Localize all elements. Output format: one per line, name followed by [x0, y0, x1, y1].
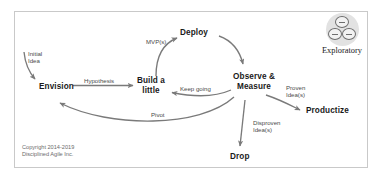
edge-label-proven-ideas-line2: Idea(s)	[286, 91, 316, 98]
edge-label-initial-idea-line2: Idea	[28, 57, 54, 64]
arrow-deploy-to-observe	[219, 36, 243, 64]
three-circles-icon-left	[328, 28, 342, 40]
arrow-observe-to-envision-pivot	[60, 97, 234, 121]
edge-label-initial-idea-line1: Initial	[28, 50, 54, 57]
edge-label-pivot: Pivot	[151, 111, 165, 118]
diagram-canvas: Envision Build a little Deploy Observe &…	[0, 0, 381, 180]
node-build-a-little-line2: little	[133, 86, 169, 96]
edge-label-proven-ideas-line1: Proven	[286, 84, 316, 91]
logo-dash-top	[339, 22, 345, 23]
edge-label-keep-going: Keep going	[180, 85, 211, 92]
logo-dash-right	[346, 34, 352, 35]
node-observe-measure-line2: Measure	[228, 82, 280, 92]
exploratory-logo: Exploratory	[320, 13, 364, 59]
copyright-line2: Disciplined Agile Inc.	[22, 151, 74, 158]
three-circles-icon-right	[342, 28, 356, 40]
logo-dash-left	[332, 34, 338, 35]
node-productize[interactable]: Productize	[306, 106, 349, 116]
edge-label-initial-idea: Initial Idea	[28, 50, 54, 65]
node-observe-measure[interactable]: Observe & Measure	[228, 72, 280, 91]
edge-label-hypothesis: Hypothesis	[84, 77, 114, 84]
node-observe-measure-line1: Observe &	[228, 72, 280, 82]
logo-label: Exploratory	[320, 46, 364, 55]
edge-label-disproven-ideas: Disproven Idea(s)	[253, 119, 289, 134]
edge-label-mvps: MVP(s)	[146, 38, 166, 45]
node-build-a-little[interactable]: Build a little	[133, 76, 169, 95]
edge-label-disproven-ideas-line2: Idea(s)	[253, 126, 289, 133]
node-drop[interactable]: Drop	[230, 152, 250, 162]
node-build-a-little-line1: Build a	[133, 76, 169, 86]
node-deploy[interactable]: Deploy	[180, 28, 208, 38]
three-circles-icon-top	[335, 16, 349, 28]
node-envision[interactable]: Envision	[39, 82, 74, 92]
copyright-notice: Copyright 2014-2019 Disciplined Agile In…	[22, 144, 74, 158]
arrow-observe-to-drop	[240, 100, 245, 146]
copyright-line1: Copyright 2014-2019	[22, 144, 74, 151]
edge-label-disproven-ideas-line1: Disproven	[253, 119, 289, 126]
edge-label-proven-ideas: Proven Idea(s)	[286, 84, 316, 99]
